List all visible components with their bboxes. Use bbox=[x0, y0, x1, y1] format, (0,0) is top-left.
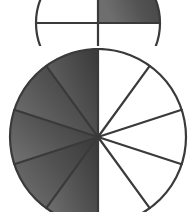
top-fraction-circle bbox=[0, 0, 196, 46]
pie-slice-shaded bbox=[98, 0, 160, 23]
bottom-pie-svg bbox=[0, 48, 196, 212]
pie-slice-unshaded bbox=[98, 23, 160, 46]
top-pie-svg bbox=[0, 0, 196, 46]
pie-slice-unshaded bbox=[36, 0, 98, 23]
pie-slice-unshaded bbox=[36, 23, 98, 46]
fraction-circles-figure bbox=[0, 0, 196, 212]
bottom-fraction-circle bbox=[0, 48, 196, 212]
